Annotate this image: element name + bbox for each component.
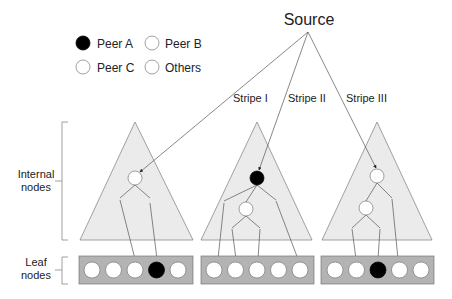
leaf-node (228, 262, 244, 278)
leaf-nodes-bracket (55, 257, 68, 284)
leaf-node (327, 262, 343, 278)
leaf-nodes-label-line2: nodes (21, 269, 51, 281)
legend-others-label: Others (165, 61, 201, 75)
leaf-nodes (84, 262, 429, 278)
leaf-node (127, 262, 143, 278)
leaf-node (149, 262, 165, 278)
legend-others-icon (145, 60, 159, 74)
stripe-3-label: Stripe III (346, 92, 387, 104)
leaf-node (106, 262, 122, 278)
stripe-1-label: Stripe I (233, 92, 268, 104)
source-label: Source (284, 11, 335, 28)
legend-peer-c-label: Peer C (97, 61, 135, 75)
internal-nodes-label-line1: Internal (18, 168, 55, 180)
leaf-node (84, 262, 100, 278)
legend-peer-a-label: Peer A (97, 37, 133, 51)
leaf-nodes-label-line1: Leaf (25, 256, 47, 268)
leaf-node (271, 262, 287, 278)
legend: Peer A Peer B Peer C Others (76, 36, 202, 75)
legend-peer-c-icon (76, 60, 90, 74)
tree-1-root-node (128, 171, 142, 185)
leaf-node (370, 262, 386, 278)
leaf-node (170, 262, 186, 278)
leaf-node (206, 262, 222, 278)
stripe-tree-diagram: Peer A Peer B Peer C Others Source Strip… (0, 0, 452, 299)
stripe-2-label: Stripe II (288, 92, 326, 104)
tree-3-child-node (359, 201, 373, 215)
legend-peer-b-icon (145, 36, 159, 50)
internal-nodes-bracket (55, 122, 68, 240)
leaf-node (349, 262, 365, 278)
leaf-node (392, 262, 408, 278)
leaf-node (413, 262, 429, 278)
tree-2-child-node (239, 202, 253, 216)
leaf-node (292, 262, 308, 278)
legend-peer-b-label: Peer B (165, 37, 202, 51)
tree-3-root-node (370, 169, 384, 183)
internal-nodes-label-line2: nodes (21, 181, 51, 193)
legend-peer-a-icon (76, 36, 90, 50)
tree-2-root-node (250, 171, 264, 185)
leaf-node (249, 262, 265, 278)
